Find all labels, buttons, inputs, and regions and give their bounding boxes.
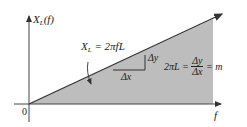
inductive-reactance-diagram: XL(f) XL = 2πfL Δx Δy 2πL = Δy Δx = m 0 … — [0, 0, 247, 127]
delta-x-label: Δx — [121, 72, 131, 82]
x-axis-label: f — [214, 110, 217, 121]
delta-y-label: Δy — [148, 53, 158, 63]
origin-label: 0 — [22, 107, 27, 117]
y-label-main: X — [33, 13, 40, 25]
slope-eq-rhs: = m — [206, 61, 222, 72]
line-equation-label: XL = 2πfL — [81, 41, 125, 54]
slope-fraction: Δy Δx — [191, 56, 203, 77]
line-eq-rhs: = 2πfL — [94, 40, 124, 52]
y-axis-label: XL(f) — [33, 14, 54, 27]
slope-equation: 2πL = Δy Δx = m — [164, 56, 222, 77]
line-eq-lhs: X — [81, 40, 88, 52]
slope-eq-lhs: 2πL = — [164, 61, 189, 72]
slope-denominator: Δx — [191, 67, 203, 77]
line-eq-sub: L — [88, 46, 92, 54]
y-label-arg: (f) — [44, 13, 54, 25]
